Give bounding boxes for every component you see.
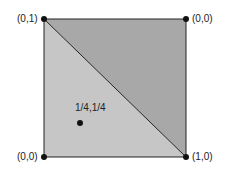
vertex-top-left (41, 16, 47, 22)
vertex-bottom-right (183, 154, 189, 160)
vertex-top-right (183, 16, 189, 22)
label-interior-point: 1/4,1/4 (75, 103, 106, 113)
label-bottom-right: (1,0) (192, 152, 213, 162)
label-top-left: (0,1) (17, 14, 38, 24)
interior-point (77, 120, 83, 126)
label-bottom-left: (0,0) (17, 152, 38, 162)
label-top-right: (0,0) (192, 14, 213, 24)
vertex-bottom-left (41, 154, 47, 160)
